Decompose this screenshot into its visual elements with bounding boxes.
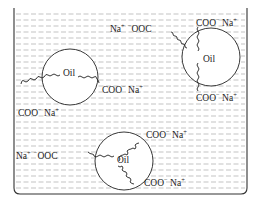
micelle-1: Oil COO− Na+ COO− Na+	[18, 49, 143, 118]
carboxylate-head-label: COO− Na+	[196, 16, 237, 28]
micelle-diagram: Oil COO− Na+ COO− Na+ Oil Na+−OOC COO− N…	[0, 0, 261, 209]
carboxylate-head-label: COO− Na+	[144, 176, 185, 188]
hydrocarbon-tail	[171, 32, 187, 48]
carboxylate-head-label: COO− Na+	[146, 128, 187, 140]
oil-label: Oil	[203, 54, 216, 64]
carboxylate-head-label: COO− Na+	[102, 83, 143, 95]
carboxylate-head-label: Na+−OOC	[110, 22, 151, 34]
carboxylate-head-label: COO− Na+	[196, 91, 237, 103]
carboxylate-head-label: Na+−OOC	[16, 149, 57, 161]
oil-label: Oil	[63, 68, 76, 78]
micelle-3: Oil Na+−OOC COO− Na+ COO− Na+	[16, 128, 187, 190]
